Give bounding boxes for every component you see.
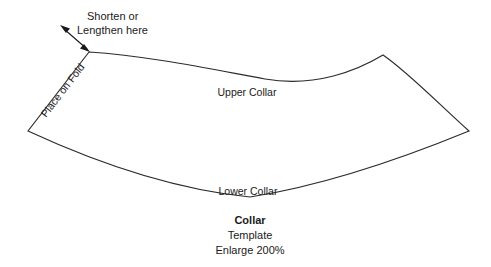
arrow-head-upper-left — [60, 25, 70, 33]
collar-template-diagram: Shorten or Lengthen here Place on Fold U… — [0, 0, 491, 267]
lower-collar-label: Lower Collar — [219, 185, 278, 197]
upper-collar-label: Upper Collar — [218, 86, 277, 98]
arrow-head-lower-right — [80, 44, 90, 52]
shorten-lengthen-label-line2: Lengthen here — [77, 24, 148, 36]
diagram-canvas: Shorten or Lengthen here Place on Fold U… — [0, 0, 491, 267]
collar-pattern-outline — [28, 52, 469, 197]
caption-enlarge-note: Enlarge 200% — [215, 244, 284, 256]
caption-title: Collar — [234, 214, 266, 226]
shorten-lengthen-label-line1: Shorten or — [87, 10, 139, 22]
caption-subtitle: Template — [228, 229, 273, 241]
